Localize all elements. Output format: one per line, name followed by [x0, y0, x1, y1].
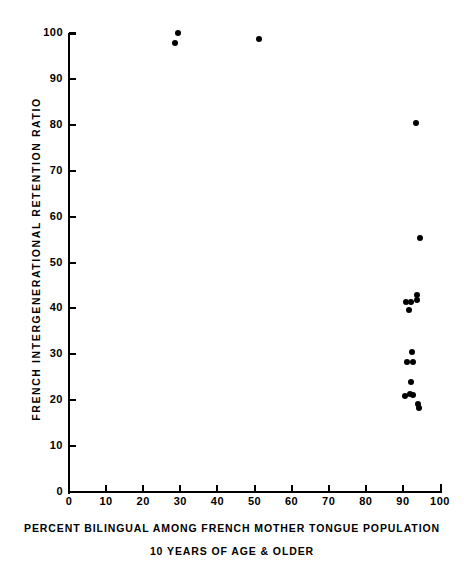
y-tick-label-10: 10: [50, 440, 63, 451]
y-tick-50: [69, 262, 76, 264]
x-tick-label-10: 10: [99, 496, 112, 507]
y-tick-90: [69, 78, 76, 80]
y-tick-20: [69, 399, 76, 401]
x-tick-30: [179, 485, 181, 492]
y-tick-label-0: 0: [56, 486, 63, 497]
y-tick-label-50: 50: [50, 257, 63, 268]
y-axis-line: [68, 33, 70, 494]
y-tick-label-70: 70: [50, 165, 63, 176]
y-tick-label-40: 40: [50, 302, 63, 313]
data-point: [406, 307, 412, 313]
y-tick-30: [69, 353, 76, 355]
x-tick-50: [254, 485, 256, 492]
y-tick-label-20: 20: [50, 394, 63, 405]
scatter-plot-figure: 0102030405060708090100 01020304050607080…: [0, 0, 464, 575]
y-axis-label: FRENCH INTERGENERATIONAL RETENTION RATIO: [30, 49, 42, 469]
data-point: [408, 299, 414, 305]
data-point: [409, 349, 415, 355]
x-tick-label-90: 90: [396, 496, 409, 507]
y-tick-100: [69, 32, 76, 34]
x-tick-label-50: 50: [248, 496, 261, 507]
x-tick-label-20: 20: [137, 496, 150, 507]
data-point: [414, 297, 420, 303]
y-tick-label-80: 80: [50, 119, 63, 130]
x-tick-10: [105, 485, 107, 492]
x-axis-right-cap: [440, 484, 442, 492]
x-tick-label-60: 60: [285, 496, 298, 507]
data-point: [413, 120, 419, 126]
y-tick-label-60: 60: [50, 211, 63, 222]
y-tick-80: [69, 124, 76, 126]
data-point: [410, 392, 416, 398]
x-tick-label-0: 0: [66, 496, 73, 507]
x-tick-20: [142, 485, 144, 492]
y-tick-70: [69, 170, 76, 172]
x-tick-60: [291, 485, 293, 492]
x-tick-label-40: 40: [211, 496, 224, 507]
x-tick-80: [365, 485, 367, 492]
x-tick-40: [216, 485, 218, 492]
data-point: [408, 379, 414, 385]
y-tick-label-90: 90: [50, 73, 63, 84]
y-tick-label-100: 100: [43, 27, 63, 38]
data-point: [172, 40, 178, 46]
data-point: [256, 36, 262, 42]
x-axis-label: PERCENT BILINGUAL AMONG FRENCH MOTHER TO…: [0, 522, 464, 534]
x-tick-70: [328, 485, 330, 492]
data-point: [175, 30, 181, 36]
y-tick-10: [69, 445, 76, 447]
x-axis-label-secondary: 10 YEARS OF AGE & OLDER: [0, 545, 464, 557]
y-tick-60: [69, 216, 76, 218]
data-point: [410, 359, 416, 365]
x-tick-90: [402, 485, 404, 492]
data-point: [417, 235, 423, 241]
x-tick-label-30: 30: [174, 496, 187, 507]
x-tick-label-70: 70: [322, 496, 335, 507]
y-tick-label-30: 30: [50, 348, 63, 359]
x-tick-label-100: 100: [430, 496, 450, 507]
x-tick-label-80: 80: [359, 496, 372, 507]
y-tick-40: [69, 307, 76, 309]
data-point: [416, 405, 422, 411]
